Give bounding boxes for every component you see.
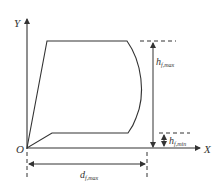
h-min-label: hf,min — [169, 136, 186, 147]
origin-label: O — [16, 144, 24, 155]
h-max-label-sub: f,max — [161, 62, 174, 68]
x-axis-label: X — [204, 144, 211, 155]
profile-outline — [27, 41, 142, 148]
h-max-label: hf,max — [156, 57, 174, 68]
profile-diagram — [0, 0, 221, 191]
d-max-label-sub: f,max — [85, 175, 98, 181]
d-max-label: df,max — [80, 170, 98, 181]
y-axis-label: Y — [14, 18, 20, 29]
h-min-label-sub: f,min — [174, 141, 186, 147]
